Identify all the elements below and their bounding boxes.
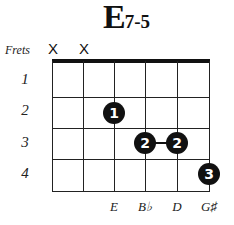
fret-number-2: 2	[18, 102, 32, 119]
string-4-line	[114, 61, 115, 192]
fret-number-3: 3	[18, 134, 32, 151]
mute-marker-string-6: X	[46, 40, 60, 57]
string-3-line	[145, 61, 146, 192]
finger-dot-string-1: 3	[198, 163, 220, 185]
string-6-line	[52, 61, 53, 192]
fret-line-4	[52, 191, 210, 192]
fret-line-3	[52, 159, 210, 160]
note-label-string-4: E	[102, 199, 126, 215]
fret-line-1	[52, 97, 210, 98]
chord-root: E	[103, 0, 126, 35]
mute-marker-string-5: X	[77, 40, 91, 57]
fret-number-1: 1	[18, 71, 32, 88]
chord-title: E7-5	[103, 0, 150, 34]
frets-label: Frets	[5, 43, 30, 58]
fret-number-4: 4	[18, 165, 32, 182]
finger-dot-string-3: 2	[134, 132, 156, 154]
note-label-string-1: G♯	[197, 199, 221, 215]
chord-quality: 7-5	[125, 11, 150, 32]
nut	[52, 59, 210, 63]
note-label-string-3: B♭	[133, 199, 157, 215]
string-2-line	[177, 61, 178, 192]
note-label-string-2: D	[165, 199, 189, 215]
finger-dot-string-4: 1	[103, 102, 125, 124]
fret-line-2	[52, 128, 210, 129]
finger-dot-string-2: 2	[166, 132, 188, 154]
string-5-line	[83, 61, 84, 192]
